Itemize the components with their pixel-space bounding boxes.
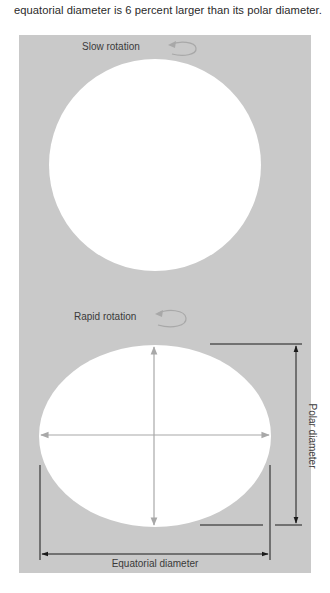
- rapid-rotation-label: Rapid rotation: [74, 311, 136, 322]
- slow-rotation-label: Slow rotation: [82, 41, 140, 52]
- slow-rotation-diagram: Slow rotation: [49, 41, 261, 271]
- equatorial-diameter-label: Equatorial diameter: [112, 558, 199, 569]
- rotation-arrow-icon: [168, 41, 196, 55]
- rotation-figure: Slow rotation Rapid rotation Polar diame…: [0, 0, 330, 593]
- slow-rotation-body: [49, 59, 261, 271]
- rapid-rotation-diagram: Rapid rotation Polar diameter Equatorial…: [39, 310, 318, 569]
- polar-diameter-label: Polar diameter: [307, 403, 318, 469]
- rapid-rotation-body: [39, 345, 271, 527]
- rotation-arrow-icon: [155, 310, 186, 327]
